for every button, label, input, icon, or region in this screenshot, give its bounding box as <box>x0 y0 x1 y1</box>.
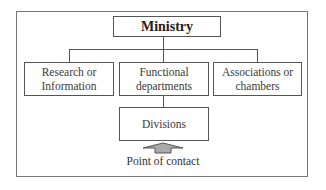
point-of-contact-caption: Point of contact <box>113 155 213 167</box>
